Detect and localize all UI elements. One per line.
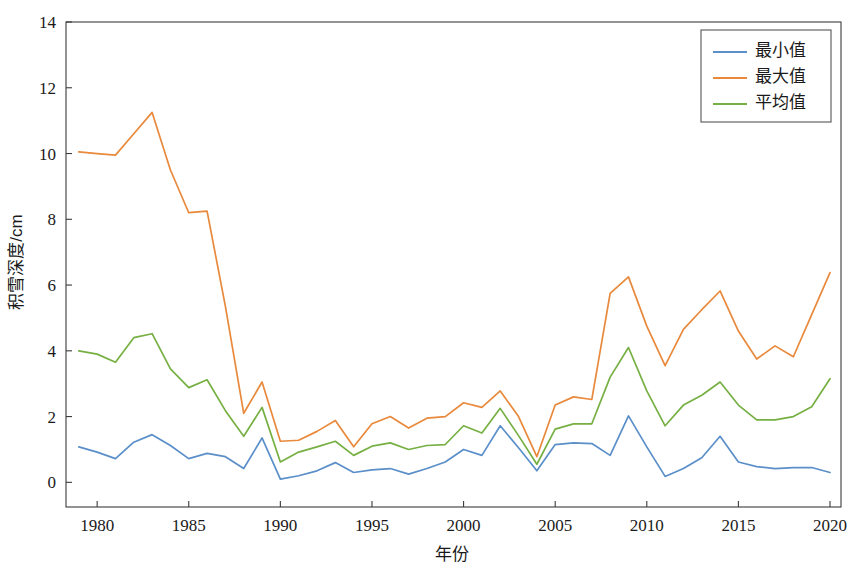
x-tick-label: 2000 xyxy=(447,516,481,535)
legend-label-1: 最小值 xyxy=(755,41,806,60)
series-line-2 xyxy=(79,112,830,456)
x-tick-label: 1995 xyxy=(355,516,389,535)
series-line-1 xyxy=(79,416,830,479)
y-tick-label: 2 xyxy=(48,408,57,427)
y-tick-label: 8 xyxy=(48,210,57,229)
y-tick-label: 10 xyxy=(39,145,56,164)
x-axis-ticks: 198019851990199520002005201020152020 xyxy=(80,501,847,535)
y-tick-label: 12 xyxy=(39,79,56,98)
x-tick-label: 1980 xyxy=(80,516,114,535)
y-tick-label: 6 xyxy=(48,276,57,295)
legend-label-2: 最大值 xyxy=(755,67,806,86)
x-tick-label: 1985 xyxy=(172,516,206,535)
y-tick-label: 4 xyxy=(48,342,57,361)
x-tick-label: 2005 xyxy=(538,516,572,535)
x-tick-label: 2010 xyxy=(630,516,664,535)
chart-legend: 最小值最大值平均值 xyxy=(701,30,831,122)
series-line-3 xyxy=(79,334,830,465)
line-chart: 02468101214 1980198519901995200020052010… xyxy=(0,0,853,572)
y-axis-ticks: 02468101214 xyxy=(39,13,72,492)
y-axis-title: 积雪深度/cm xyxy=(7,214,26,309)
legend-label-3: 平均值 xyxy=(755,93,806,112)
chart-figure: 02468101214 1980198519901995200020052010… xyxy=(0,0,853,572)
x-axis-title: 年份 xyxy=(435,545,469,564)
y-tick-label: 14 xyxy=(39,13,57,32)
series-group xyxy=(79,112,830,479)
x-tick-label: 1990 xyxy=(263,516,297,535)
y-tick-label: 0 xyxy=(48,473,57,492)
x-tick-label: 2020 xyxy=(813,516,847,535)
x-tick-label: 2015 xyxy=(721,516,755,535)
